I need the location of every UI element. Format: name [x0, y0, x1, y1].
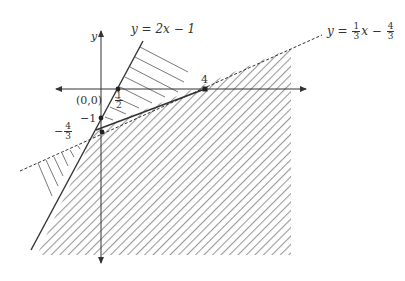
eq-lhs: y =: [131, 22, 155, 36]
den: 3: [388, 32, 394, 41]
point-neg4-3: [100, 130, 105, 135]
origin-label: (0,0): [76, 95, 102, 106]
eq-rhs: 2x − 1: [155, 22, 195, 36]
equation-solid: y = 2x − 1: [131, 23, 195, 35]
neg-four-thirds-label: −43: [54, 122, 73, 141]
fraction-1-3: 13: [352, 22, 360, 41]
solution-region-dense: [37, 48, 291, 255]
point-neg1: [99, 116, 104, 121]
sign: −: [54, 125, 63, 138]
inequality-graph: y y = 2x − 1 y = 13x − 43 (0,0) −1 −43 1…: [0, 0, 405, 281]
fraction: 12: [115, 91, 123, 110]
point-four: [203, 87, 208, 92]
den: 3: [353, 32, 359, 41]
four-label: 4: [201, 74, 208, 85]
eq-lhs: y =: [327, 24, 351, 38]
y-axis-label: y: [91, 31, 97, 42]
one-half-label: 12: [114, 91, 124, 110]
neg-one-label: −1: [80, 113, 96, 124]
equation-dashed: y = 13x − 43: [327, 22, 395, 41]
den: 3: [65, 132, 71, 141]
fraction-4-3: 43: [387, 22, 395, 41]
eq-mid: x −: [361, 24, 385, 38]
den: 2: [116, 101, 122, 110]
fraction: 43: [64, 122, 72, 141]
